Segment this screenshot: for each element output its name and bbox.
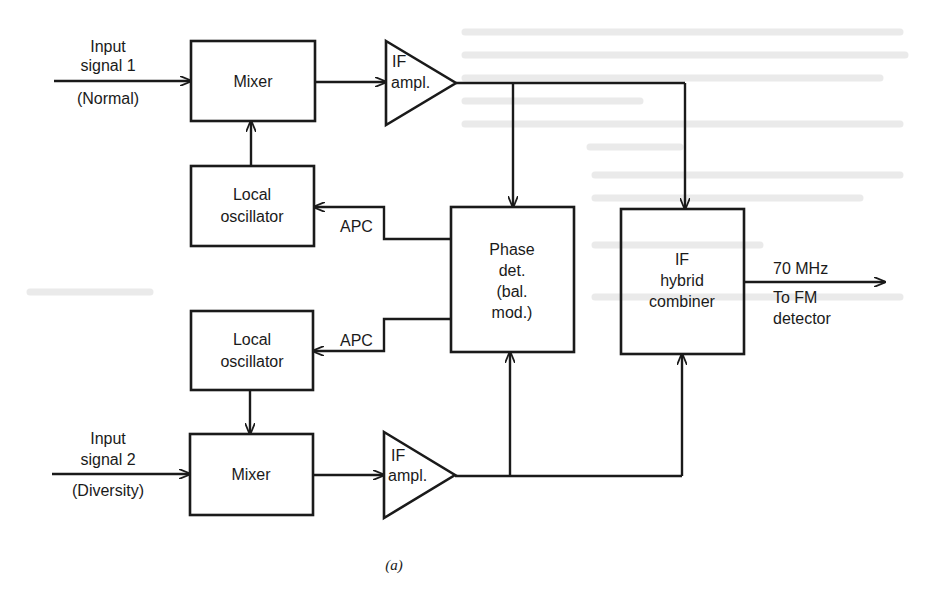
lo-1-label-line1: Local xyxy=(233,186,271,203)
phase-det-label-line2: det. xyxy=(499,262,526,279)
if-amp-1-label-line1: IF xyxy=(392,53,406,70)
phase-detector-block: Phase det. (bal. mod.) xyxy=(451,207,574,352)
if-amp-2-label-line2: ampl. xyxy=(388,467,427,484)
input-1-label-line2: signal 1 xyxy=(80,57,135,74)
input-1-sub: (Normal) xyxy=(77,90,139,107)
bleed-through-texture xyxy=(30,32,905,297)
phase-det-label-line1: Phase xyxy=(489,241,534,258)
lo-1-label-line2: oscillator xyxy=(220,208,284,225)
apc-2-path: APC xyxy=(313,319,451,351)
if-amp-2-block: IF ampl. xyxy=(384,432,455,518)
combiner-label-line2: hybrid xyxy=(660,272,704,289)
phase-det-label-line3: (bal. xyxy=(496,283,527,300)
if-amp-1-block: IF ampl. xyxy=(386,41,456,125)
lo-1-block: Local oscillator xyxy=(191,166,314,246)
input-2-sub: (Diversity) xyxy=(72,482,144,499)
figure-caption: (a) xyxy=(385,557,403,574)
lo-2-label-line2: oscillator xyxy=(220,353,284,370)
input-signal-2: Input signal 2 (Diversity) xyxy=(52,430,190,499)
apc-1-label: APC xyxy=(340,218,373,235)
combiner-label-line3: combiner xyxy=(649,293,715,310)
diagram-canvas: Input signal 1 (Normal) Mixer IF ampl. L… xyxy=(0,0,931,608)
lo-2-label-line1: Local xyxy=(233,331,271,348)
combiner-block: IF hybrid combiner xyxy=(621,209,744,354)
if-amp-1-label-line2: ampl. xyxy=(391,74,430,91)
output-label-line2: detector xyxy=(773,310,831,327)
mixer-2-label: Mixer xyxy=(231,466,271,483)
mixer-2-block: Mixer xyxy=(190,434,313,515)
combiner-label-line1: IF xyxy=(675,251,689,268)
apc-2-label: APC xyxy=(340,332,373,349)
input-2-label-line1: Input xyxy=(90,430,126,447)
input-1-label-line1: Input xyxy=(90,38,126,55)
input-signal-1: Input signal 1 (Normal) xyxy=(54,38,191,107)
phase-det-label-line4: mod.) xyxy=(492,304,533,321)
apc-1-path: APC xyxy=(314,207,451,239)
input-2-label-line2: signal 2 xyxy=(80,451,135,468)
if-amp-2-label-line1: IF xyxy=(391,447,405,464)
mixer-1-label: Mixer xyxy=(233,73,273,90)
if-amp-2-output-bus xyxy=(455,352,682,476)
mixer-1-block: Mixer xyxy=(191,41,315,121)
output-label-line1: To FM xyxy=(773,289,817,306)
output-freq-label: 70 MHz xyxy=(773,260,828,277)
lo-2-block: Local oscillator xyxy=(191,311,313,390)
